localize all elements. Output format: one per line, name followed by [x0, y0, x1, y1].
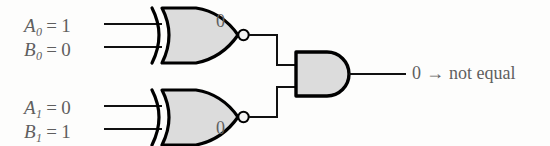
- input-label-b0: B0=0: [24, 40, 71, 62]
- xnor1-inversion-bubble: [238, 112, 248, 122]
- xnor-gate-0: [104, 8, 249, 63]
- input-label-a1: A1=0: [24, 98, 71, 120]
- input-a0-variable: A: [24, 15, 36, 36]
- input-a0-equals: =: [46, 15, 57, 36]
- xnor0-output-value: 0: [216, 12, 225, 30]
- xnor-gate-1: [104, 90, 249, 145]
- circuit-output-label: 0→not equal: [412, 64, 515, 82]
- logic-circuit-figure: A0=1 B0=0 A1=0 B1=1 0 0 0→not equal: [0, 0, 550, 146]
- xnor1-back-arc-outer: [152, 90, 159, 145]
- input-b1-equals: =: [46, 121, 57, 142]
- circuit-output-meaning: not equal: [449, 63, 515, 83]
- xnor0-back-arc-outer: [152, 8, 159, 63]
- input-b0-value: 0: [61, 39, 71, 60]
- and-gate-body: [296, 52, 349, 96]
- input-b1-value: 1: [61, 121, 71, 142]
- xnor1-output-value: 0: [216, 119, 225, 137]
- arrow-right-icon: →: [426, 63, 444, 83]
- wire-xnor1-to-and: [249, 87, 295, 117]
- input-a1-variable: A: [24, 97, 36, 118]
- input-b0-equals: =: [46, 39, 57, 60]
- input-label-a0: A0=1: [24, 16, 71, 38]
- input-b0-variable: B: [24, 39, 36, 60]
- input-label-b1: B1=1: [24, 122, 71, 144]
- input-b0-subscript: 0: [36, 49, 42, 63]
- xnor0-body: [162, 8, 238, 63]
- input-a1-subscript: 1: [36, 107, 42, 121]
- circuit-output-value: 0: [412, 63, 421, 83]
- input-b1-subscript: 1: [36, 131, 42, 145]
- xnor1-body: [162, 90, 238, 145]
- input-a1-value: 0: [61, 97, 71, 118]
- xnor0-inversion-bubble: [238, 30, 248, 40]
- wire-xnor0-to-and: [249, 35, 295, 65]
- input-a0-value: 1: [61, 15, 71, 36]
- input-b1-variable: B: [24, 121, 36, 142]
- and-gate: [296, 52, 349, 96]
- input-a0-subscript: 0: [36, 25, 42, 39]
- input-a1-equals: =: [46, 97, 57, 118]
